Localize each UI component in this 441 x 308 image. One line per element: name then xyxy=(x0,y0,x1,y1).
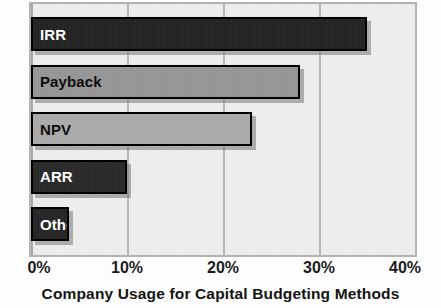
bar-payback[interactable]: Payback xyxy=(31,65,300,99)
bar-row: NPV xyxy=(31,112,419,146)
plot-area: IRRPaybackNPVARROther xyxy=(29,2,417,257)
bar-label: ARR xyxy=(33,168,73,185)
bar-arr[interactable]: ARR xyxy=(31,160,127,194)
x-tick-label: 10% xyxy=(111,259,143,277)
x-axis: 0%10%20%30%40% xyxy=(0,259,441,283)
bar-row: Other xyxy=(31,207,419,241)
bar-label: Other xyxy=(33,216,69,233)
bar-other[interactable]: Other xyxy=(31,207,69,241)
chart-title: Company Usage for Capital Budgeting Meth… xyxy=(0,285,441,303)
x-tick-label: 30% xyxy=(303,259,335,277)
x-tick-label: 20% xyxy=(207,259,239,277)
bar-row: Payback xyxy=(31,65,419,99)
x-tick-label: 0% xyxy=(27,259,50,277)
bar-label: Payback xyxy=(33,73,102,90)
bar-row: ARR xyxy=(31,160,419,194)
bar-irr[interactable]: IRR xyxy=(31,17,367,51)
bar-row: IRR xyxy=(31,17,419,51)
bar-npv[interactable]: NPV xyxy=(31,112,252,146)
bar-label: NPV xyxy=(33,121,71,138)
x-tick-label: 40% xyxy=(389,259,421,277)
chart-page: IRRPaybackNPVARROther 0%10%20%30%40% Com… xyxy=(0,0,441,308)
bar-label: IRR xyxy=(33,26,66,43)
